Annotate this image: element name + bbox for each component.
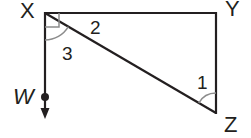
label-y: Y: [225, 0, 240, 21]
arrow-down-icon: [41, 108, 50, 119]
label-x: X: [20, 0, 35, 23]
label-z: Z: [224, 112, 237, 137]
label-w: W: [13, 84, 36, 109]
geometry-diagram: X Y Z W 2 3 1: [0, 0, 251, 138]
point-w-dot: [41, 93, 49, 101]
angle-3-arc: [45, 27, 68, 40]
angle-1-arc: [199, 93, 216, 103]
label-angle-1: 1: [197, 72, 208, 93]
label-angle-2: 2: [90, 17, 101, 38]
label-angle-3: 3: [62, 43, 73, 64]
